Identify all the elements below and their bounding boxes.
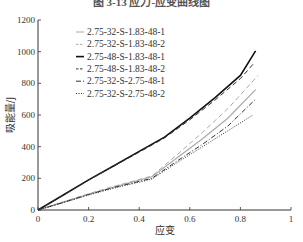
legend-entry: 2.75-32-S-2.75-48-2 [87,89,165,99]
series-line-6 [38,115,253,210]
y-tick-label: 1000 [17,47,36,57]
x-tick-label: 1 [289,214,294,224]
series-line-1 [38,90,256,210]
y-tick-label: 0 [31,205,36,215]
y-tick-label: 800 [22,78,36,88]
legend-entry: 2.75-32-S-1.83-48-2 [87,39,165,49]
legend-entry: 2.75-32-S-1.83-48-1 [87,27,165,37]
x-tick-label: 0.8 [235,214,247,224]
legend-entry: 2.75-48-S-1.83-48-1 [87,52,165,62]
series-line-5 [38,99,256,210]
line-chart: 00.20.40.60.81020040060080010001200应变吸能量… [0,0,303,242]
x-tick-label: 0 [36,214,41,224]
y-axis-label: 吸能量/J [4,97,16,133]
x-tick-label: 0.2 [83,214,94,224]
x-tick-label: 0.6 [184,214,196,224]
legend-entry: 2.75-32-S-2.75-48-1 [87,76,165,86]
x-axis-label: 应变 [155,224,175,236]
y-tick-label: 200 [22,173,36,183]
legend-entry: 2.75-48-S-1.83-48-2 [87,64,165,74]
y-tick-label: 1200 [17,15,36,25]
series-line-3 [38,51,256,210]
x-tick-label: 0.4 [134,214,146,224]
y-tick-label: 600 [22,110,36,120]
y-tick-label: 400 [22,142,36,152]
